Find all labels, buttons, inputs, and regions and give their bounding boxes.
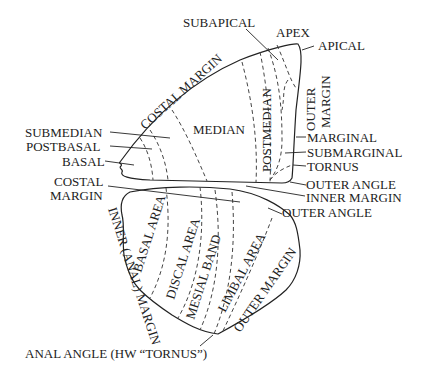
label-tornus: TORNUS (307, 159, 359, 174)
label-apex: APEX (276, 25, 311, 40)
label-submedian: SUBMEDIAN (25, 125, 103, 140)
label-costal-margin-hindwing-2: MARGIN (50, 188, 103, 203)
label-anal-angle: ANAL ANGLE (HW “TORNUS”) (25, 346, 207, 361)
forewing-submedian-boundary (172, 110, 207, 181)
label-postmedian: POSTMEDIAN (259, 88, 274, 172)
label-outer-margin-forewing-1: OUTER (303, 87, 318, 131)
label-basal-area: BASAL AREA (130, 193, 169, 274)
label-costal-margin-hindwing-1: COSTAL (54, 174, 104, 189)
label-inner-margin: INNER MARGIN (306, 190, 402, 205)
forewing-basal-boundary (140, 138, 153, 180)
label-median: MEDIAN (193, 122, 246, 137)
label-basal: BASAL (62, 154, 105, 169)
label-apical: APICAL (318, 38, 365, 53)
forewing-apical-boundary (282, 80, 288, 110)
label-costal-margin-forewing: COSTAL MARGIN (137, 50, 226, 132)
label-subapical: SUBAPICAL (183, 15, 255, 30)
label-submarginal: SUBMARGINAL (307, 145, 402, 160)
label-marginal: MARGINAL (307, 130, 377, 145)
label-outer-angle-hindwing: OUTER ANGLE (282, 205, 372, 220)
label-outer-margin-forewing-2: MARGIN (318, 75, 333, 128)
label-postbasal: POSTBASAL (26, 139, 100, 154)
butterfly-wing-regions-diagram: SUBAPICAL APEX APICAL COSTAL MARGIN MEDI… (0, 0, 427, 370)
